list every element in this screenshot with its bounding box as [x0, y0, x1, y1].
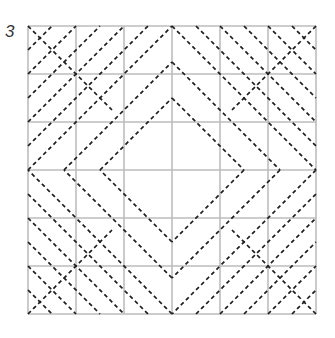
- corner-segment-bottom-left: [28, 230, 112, 314]
- folding-pattern-diagram: [0, 0, 335, 338]
- corner-segment-top-right: [232, 26, 316, 110]
- corner-segment-bottom-right: [232, 230, 316, 314]
- corner-segment-top-left: [28, 26, 112, 110]
